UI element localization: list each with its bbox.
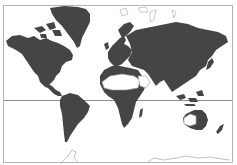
world-map-svg xyxy=(0,0,237,165)
world-map xyxy=(0,0,237,165)
